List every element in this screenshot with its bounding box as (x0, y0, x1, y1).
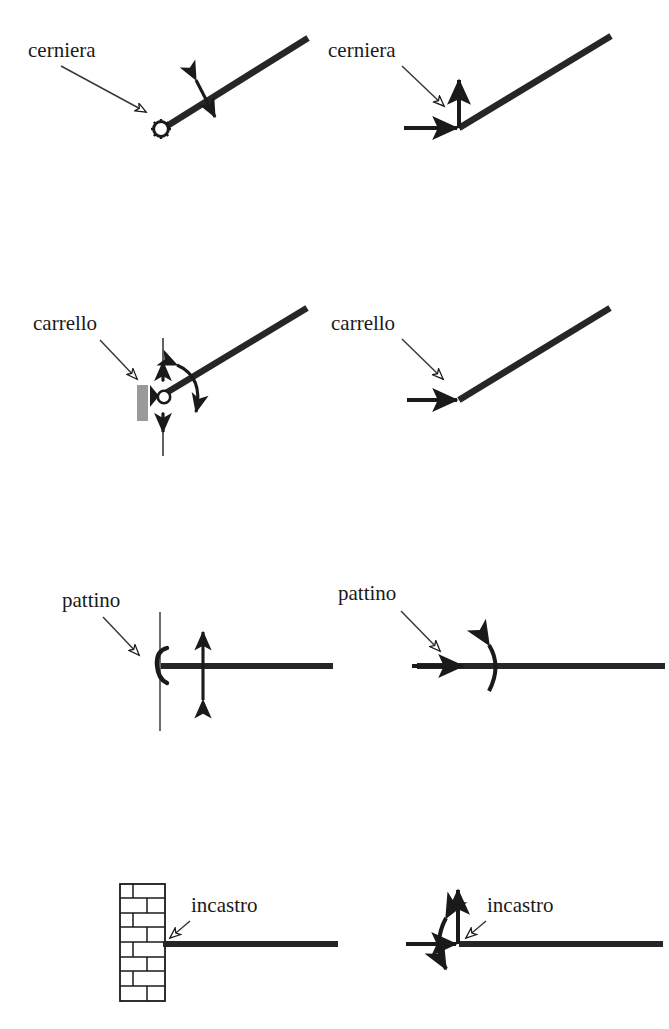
incastro-left-label: incastro (191, 893, 257, 917)
carrello-left-label: carrello (33, 311, 97, 335)
carrello-wall-block (137, 385, 148, 421)
brick-wall-icon (120, 884, 165, 1001)
pattino-left-label: pattino (62, 588, 120, 612)
diagram-background (0, 0, 669, 1029)
hinge-cog-icon (151, 119, 171, 139)
carrello-roller-circle (158, 391, 170, 403)
carrello-right-label: carrello (331, 311, 395, 335)
pattino-right-label: pattino (338, 581, 396, 605)
incastro-right-label: incastro (487, 893, 553, 917)
cerniera-right-label: cerniera (328, 38, 396, 62)
cerniera-left-label: cerniera (28, 38, 96, 62)
supports-diagram: cerniera cerniera (0, 0, 669, 1029)
